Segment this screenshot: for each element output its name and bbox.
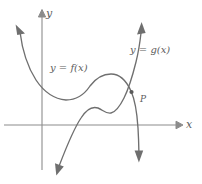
curve-f-lower-right-arrowhead-icon [135,151,144,163]
curve-g-upper-right-arrowhead-icon [137,22,146,34]
curve-g-label: y = g(x) [130,44,170,55]
curve-f-path [20,32,139,152]
x-axis [4,121,183,129]
x-axis-label: x [186,118,192,131]
intersection-point-label: P [140,94,146,104]
curve-g-lower-left-arrowhead-icon [55,163,64,175]
curve-f [16,24,144,162]
intersection-point-dot [129,90,133,94]
y-axis-label: y [46,7,52,20]
graph-canvas [0,0,202,184]
figure-container: y x y = f(x) y = g(x) P [0,0,202,184]
x-axis-arrowhead-icon [176,121,183,129]
y-axis-arrowhead-icon [38,10,45,18]
curve-f-label: y = f(x) [50,62,88,73]
curve-f-upper-left-arrowhead-icon [16,24,25,35]
